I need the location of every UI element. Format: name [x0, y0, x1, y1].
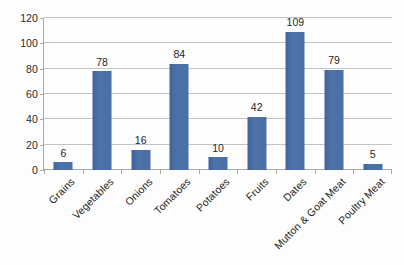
x-axis-label-tomatoes: Tomatoes	[153, 176, 194, 217]
x-axis-label-onions: Onions	[123, 176, 155, 208]
x-axis-label-grains: Grains	[47, 176, 77, 206]
bar-slot: 78	[83, 18, 122, 170]
bar[interactable]	[92, 71, 111, 170]
x-axis-label-vegetables: Vegetables	[71, 176, 117, 222]
x-tick-mark	[199, 170, 200, 174]
plot-area: 67816841042109795	[44, 18, 392, 170]
bar-value-label: 6	[60, 148, 66, 159]
bar[interactable]	[247, 117, 266, 170]
bar[interactable]	[131, 150, 150, 170]
bar-value-label: 84	[173, 49, 185, 60]
x-axis-labels: GrainsVegetablesOnionsTomatoesPotatoesFr…	[44, 176, 392, 265]
bar-slot: 16	[121, 18, 160, 170]
x-axis-label-mutton-goat-meat: Mutton & Goat Meat	[272, 176, 348, 252]
bar-value-label: 42	[251, 102, 263, 113]
x-tick-mark	[121, 170, 122, 174]
x-tick-mark	[44, 170, 45, 174]
bar-value-label: 79	[328, 55, 340, 66]
bar-slot: 42	[237, 18, 276, 170]
bar-slot: 109	[276, 18, 315, 170]
y-tick-label-0: 0	[4, 165, 38, 176]
x-tick-mark	[276, 170, 277, 174]
x-axis-label-dates: Dates	[282, 176, 310, 204]
bar[interactable]	[208, 157, 227, 170]
bar[interactable]	[54, 162, 73, 170]
x-tick-mark	[315, 170, 316, 174]
bar[interactable]	[170, 64, 189, 170]
bar-value-label: 78	[96, 57, 108, 68]
bar-slot: 84	[160, 18, 199, 170]
x-tick-mark	[391, 170, 392, 174]
bar-value-label: 5	[370, 149, 376, 160]
y-tick-label-120: 120	[4, 13, 38, 24]
y-tick-label-80: 80	[4, 63, 38, 74]
x-tick-mark	[160, 170, 161, 174]
bar-chart: 020406080100120 67816841042109795 Grains…	[0, 0, 404, 265]
bars-layer: 67816841042109795	[44, 18, 392, 170]
y-tick-label-60: 60	[4, 89, 38, 100]
y-tick-label-40: 40	[4, 114, 38, 125]
x-tick-mark	[83, 170, 84, 174]
x-axis-label-fruits: Fruits	[244, 176, 271, 203]
bar-value-label: 16	[135, 135, 147, 146]
bar[interactable]	[286, 32, 305, 170]
bar-slot: 5	[353, 18, 392, 170]
bar-slot: 79	[315, 18, 354, 170]
x-axis-label-potatoes: Potatoes	[194, 176, 232, 214]
x-tick-mark	[237, 170, 238, 174]
y-tick-label-100: 100	[4, 38, 38, 49]
bar[interactable]	[324, 70, 343, 170]
bar-value-label: 109	[287, 17, 305, 28]
bar-slot: 6	[44, 18, 83, 170]
x-tick-mark	[353, 170, 354, 174]
y-tick-label-20: 20	[4, 139, 38, 150]
bar-value-label: 10	[212, 143, 224, 154]
bar-slot: 10	[199, 18, 238, 170]
